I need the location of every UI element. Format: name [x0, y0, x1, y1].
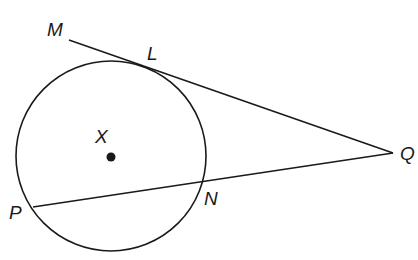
tangent-line-mq	[69, 40, 393, 153]
label-p: P	[9, 203, 22, 222]
label-l: L	[147, 44, 158, 63]
label-x: X	[95, 127, 108, 146]
label-q: Q	[400, 144, 415, 163]
label-m: M	[47, 20, 63, 39]
center-point-x	[107, 153, 116, 162]
geometry-diagram: M L X Q P N	[0, 0, 418, 260]
label-n: N	[204, 189, 218, 208]
